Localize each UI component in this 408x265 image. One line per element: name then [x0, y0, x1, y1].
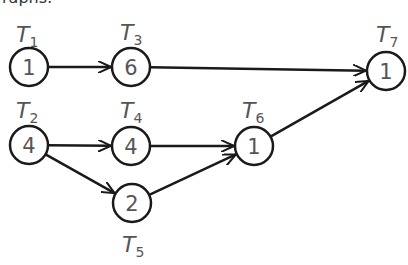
- label-subscript: 1: [29, 34, 38, 50]
- label-letter: T: [120, 20, 133, 45]
- label-letter: T: [376, 22, 389, 47]
- label-subscript: 5: [135, 244, 144, 260]
- label-letter: T: [120, 98, 133, 123]
- node-label-t6: T6: [242, 98, 264, 126]
- label-letter: T: [16, 22, 29, 47]
- node-label-t1: T1: [16, 22, 38, 50]
- node-weight: 1: [22, 56, 35, 80]
- edge-t2-t5: [46, 154, 115, 193]
- node-label-t3: T3: [120, 20, 142, 48]
- node-weight: 4: [22, 134, 35, 158]
- label-subscript: 7: [389, 34, 398, 50]
- node-t2: 4: [10, 126, 48, 164]
- node-label-t5: T5: [122, 232, 144, 260]
- edge-t5-t6: [149, 154, 236, 194]
- label-letter: T: [16, 98, 29, 123]
- node-weight: 4: [124, 135, 137, 159]
- node-t1: 1: [10, 48, 48, 86]
- node-label-t7: T7: [376, 22, 398, 50]
- node-weight: 2: [125, 192, 138, 216]
- edge-t3-t7: [150, 67, 366, 70]
- node-weight: 1: [379, 60, 392, 84]
- node-t3: 6: [112, 48, 150, 86]
- node-t5: 2: [113, 184, 151, 222]
- label-subscript: 4: [133, 110, 142, 126]
- node-t6: 1: [235, 127, 273, 165]
- edge-t6-t7: [271, 81, 369, 137]
- node-t7: 1: [367, 52, 405, 90]
- label-letter: T: [122, 232, 135, 257]
- label-subscript: 3: [133, 32, 142, 48]
- edge-t2-t4: [48, 145, 111, 146]
- label-subscript: 2: [29, 110, 38, 126]
- label-letter: T: [242, 98, 255, 123]
- node-weight: 1: [247, 135, 260, 159]
- node-t4: 4: [112, 127, 150, 165]
- node-label-t4: T4: [120, 98, 142, 126]
- node-weight: 6: [124, 56, 137, 80]
- label-subscript: 6: [255, 110, 264, 126]
- task-graph: 1464211: [0, 0, 408, 265]
- node-label-t2: T2: [16, 98, 38, 126]
